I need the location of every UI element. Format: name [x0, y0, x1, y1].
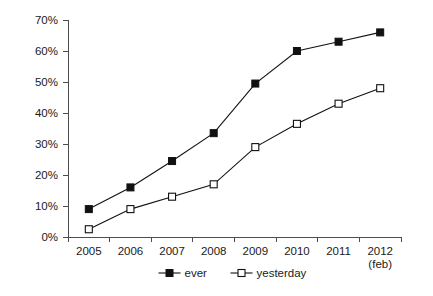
data-point-ever-2012 [377, 29, 384, 36]
data-point-yesterday-2006 [127, 206, 134, 213]
data-point-yesterday-2008 [210, 181, 217, 188]
legend-label-ever: ever [185, 267, 208, 279]
data-point-ever-2006 [127, 184, 134, 191]
data-point-ever-2007 [169, 158, 176, 165]
y-axis-tick-label: 50% [35, 76, 58, 88]
y-axis-tick-marks [63, 20, 68, 237]
x-axis-tick-label: 2007 [159, 245, 185, 257]
data-point-yesterday-2009 [252, 144, 259, 151]
x-axis-tick-label: 2010 [284, 245, 310, 257]
data-point-yesterday-2005 [85, 226, 92, 233]
x-axis-tick-label: 2009 [243, 245, 269, 257]
y-axis-tick-label: 60% [35, 45, 58, 57]
x-axis-tick-label: 2005 [76, 245, 102, 257]
y-axis-tick-label: 0% [41, 231, 58, 243]
y-axis-tick-label: 10% [35, 200, 58, 212]
x-axis-tick-label: 2012 [367, 245, 393, 257]
y-axis-tick-label: 70% [35, 14, 58, 26]
x-axis-tick-label: 2006 [118, 245, 144, 257]
line-chart: 0%10%20%30%40%50%60%70% 2005200620072008… [0, 0, 433, 296]
series-markers [85, 29, 383, 233]
legend-marker-ever [166, 270, 173, 277]
data-point-yesterday-2007 [169, 193, 176, 200]
legend-marker-yesterday [238, 270, 245, 277]
data-point-yesterday-2012 [377, 85, 384, 92]
x-axis-tick-marks [68, 237, 401, 242]
y-axis-tick-label: 40% [35, 107, 58, 119]
x-axis-tick-labels: 20052006200720082009201020112012(feb) [76, 245, 393, 270]
data-point-ever-2010 [293, 48, 300, 55]
data-point-yesterday-2011 [335, 100, 342, 107]
x-axis-tick-label: 2011 [326, 245, 351, 257]
data-point-ever-2005 [85, 206, 92, 213]
data-point-ever-2008 [210, 130, 217, 137]
series-lines [89, 32, 380, 229]
data-point-yesterday-2010 [293, 120, 300, 127]
x-axis-tick-label: 2008 [201, 245, 227, 257]
x-axis-tick-sublabel: (feb) [368, 258, 392, 270]
chart-canvas: 0%10%20%30%40%50%60%70% 2005200620072008… [0, 0, 433, 296]
y-axis-tick-labels: 0%10%20%30%40%50%60%70% [35, 14, 58, 243]
chart-legend: everyesterday [159, 267, 307, 279]
series-line-ever [89, 32, 380, 209]
data-point-ever-2009 [252, 80, 259, 87]
y-axis-tick-label: 20% [35, 169, 58, 181]
legend-label-yesterday: yesterday [257, 267, 307, 279]
y-axis-tick-label: 30% [35, 138, 58, 150]
data-point-ever-2011 [335, 38, 342, 45]
